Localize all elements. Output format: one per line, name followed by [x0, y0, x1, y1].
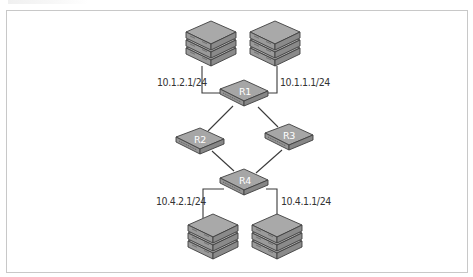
router-r1-label: R1 [239, 86, 251, 97]
interface-label-r1-right: 10.1.1.1/24 [280, 76, 330, 88]
router-r4-label: R4 [239, 175, 251, 186]
router-r2[interactable]: R2 [176, 128, 224, 154]
link-servers-top-right-r1 [266, 66, 277, 93]
router-r3-label: R3 [283, 130, 295, 141]
link-r4-servers-bottom-right [266, 189, 277, 218]
router-r3[interactable]: R3 [265, 124, 313, 150]
interface-label-r1-left: 10.1.2.1/24 [157, 76, 207, 88]
interface-label-r4-right: 10.4.1.1/24 [281, 195, 331, 207]
server-stack-top-left[interactable] [186, 21, 236, 66]
router-r1[interactable]: R1 [220, 80, 268, 106]
interface-label-r4-left: 10.4.2.1/24 [156, 195, 206, 207]
server-stack-bottom-right[interactable] [252, 214, 302, 259]
router-r4[interactable]: R4 [220, 169, 268, 195]
link-r3-r4 [256, 150, 282, 173]
server-stack-top-right[interactable] [250, 21, 300, 66]
router-r2-label: R2 [194, 134, 206, 145]
link-r1-r2 [208, 106, 233, 131]
link-r2-r4 [212, 151, 234, 171]
link-r4-servers-bottom-left [203, 189, 224, 218]
link-r1-r3 [258, 107, 278, 127]
server-stack-bottom-left[interactable] [188, 214, 238, 259]
network-diagram: R1 R2 R3 R4 10.1.2.1/24 10.1.1.1/24 10.4… [0, 0, 473, 277]
